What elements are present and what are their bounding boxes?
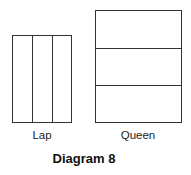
queen-label: Queen <box>121 129 156 141</box>
lap-outline <box>13 36 72 123</box>
diagram-canvas: Lap Queen Diagram 8 <box>0 0 191 175</box>
lap-label: Lap <box>32 129 51 141</box>
queen-outline <box>96 11 182 123</box>
queen-quilt <box>96 11 182 123</box>
lap-quilt <box>13 36 72 123</box>
diagram-title: Diagram 8 <box>53 151 116 166</box>
